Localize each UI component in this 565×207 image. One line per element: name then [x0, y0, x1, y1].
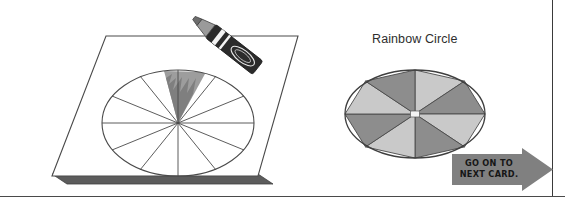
page-canvas: Rainbow Circle: [0, 0, 565, 207]
crayon-coloring-paper-illustration: [30, 8, 305, 190]
go-on-next-card-text: GO ON TO NEXT CARD.: [458, 158, 520, 179]
go-on-next-card-banner: GO ON TO NEXT CARD.: [452, 148, 554, 192]
pie-hub: [411, 111, 420, 117]
rainbow-circle-figure: Rainbow Circle: [330, 22, 500, 167]
page-border-bottom: [0, 196, 565, 197]
go-on-line-1: GO ON TO: [458, 158, 520, 169]
figure-title: Rainbow Circle: [372, 32, 457, 46]
go-on-line-2: NEXT CARD.: [458, 169, 520, 180]
